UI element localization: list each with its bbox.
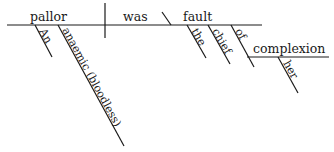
verb-word: was [123, 9, 148, 24]
preposition-of: of [232, 26, 249, 42]
modifier-anaemic: anaemic (bloodless) [59, 25, 124, 129]
modifier-her: her [280, 58, 301, 81]
modifier-the: the [188, 26, 208, 48]
predicate-divider [162, 12, 171, 25]
object-word: complexion [253, 41, 325, 56]
sentence-diagram: pallor was fault An anaemic (bloodless) … [0, 0, 334, 152]
modifier-chief: chief [209, 26, 234, 57]
modifier-an: An [36, 25, 55, 45]
predicate-word: fault [183, 9, 212, 24]
subject-word: pallor [30, 9, 67, 24]
